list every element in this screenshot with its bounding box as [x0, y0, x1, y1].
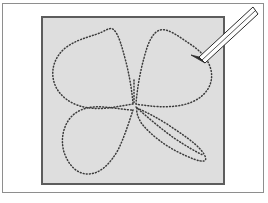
figure-root: [0, 0, 268, 203]
drawing-canvas: [41, 16, 225, 185]
